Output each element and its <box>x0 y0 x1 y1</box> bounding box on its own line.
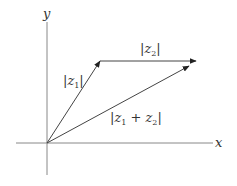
label-z1-plus-z2: |z1 + z2| <box>110 110 162 127</box>
label-z2: |z2| <box>140 41 161 58</box>
y-axis-label: y <box>42 6 51 21</box>
label-z1: |z1| <box>63 73 84 90</box>
vector-diagram: x y |z1| |z2| |z1 + z2| <box>0 0 237 186</box>
x-axis-label: x <box>215 135 223 150</box>
